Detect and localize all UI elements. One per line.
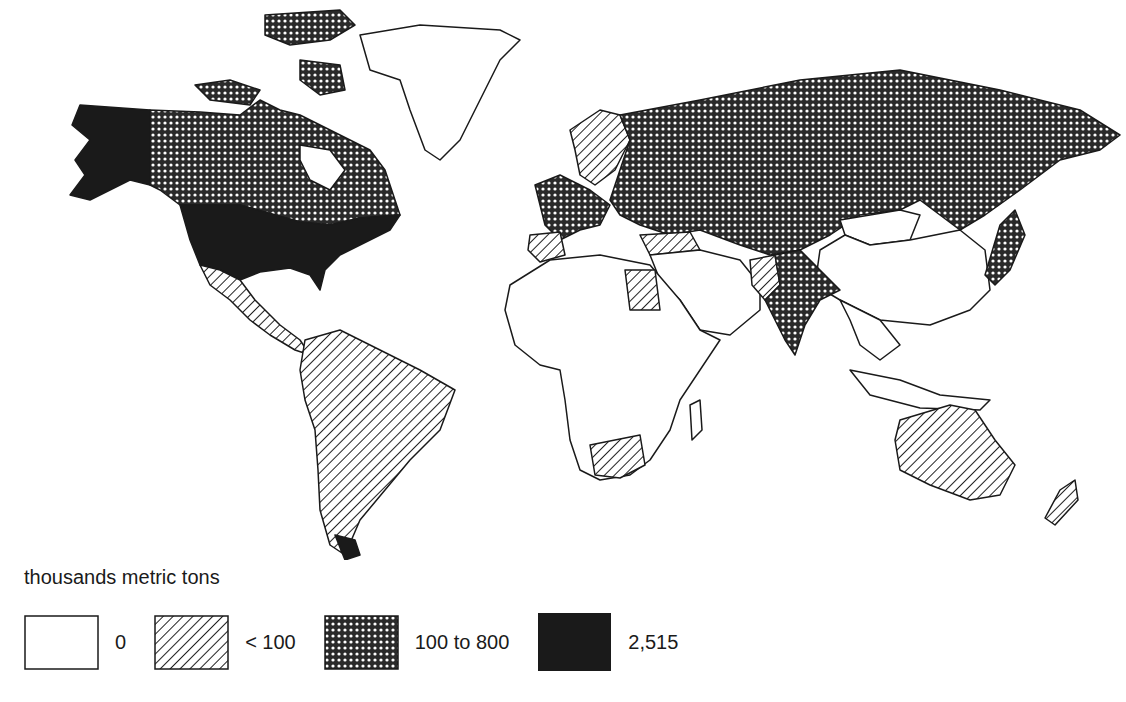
legend-item-zero: 0: [24, 615, 126, 670]
region-greenland: [360, 25, 520, 160]
legend-label: 0: [115, 631, 126, 654]
region-china: [815, 230, 990, 325]
legend-swatch-white: [24, 615, 99, 670]
region-spain: [528, 232, 565, 262]
legend-item-2515: 2,515: [537, 612, 678, 672]
legend-item-lt100: < 100: [154, 615, 296, 670]
legend-swatch-hatch: [154, 615, 229, 670]
region-new-zealand: [1045, 480, 1078, 525]
legend-swatch-crosshatch: [324, 615, 399, 670]
legend-label: 100 to 800: [415, 631, 510, 654]
legend-swatch-black: [537, 612, 612, 672]
region-madagascar: [690, 400, 702, 440]
legend: 0 < 100 100 to 800 2,515: [24, 612, 706, 672]
region-south-america: [300, 330, 455, 555]
region-indonesia: [850, 370, 990, 410]
region-canada-arctic: [195, 10, 355, 105]
legend-label: < 100: [245, 631, 296, 654]
region-western-europe: [535, 175, 610, 240]
region-alaska: [70, 105, 150, 200]
region-japan: [985, 210, 1025, 285]
region-australia: [895, 405, 1015, 500]
world-map: [0, 0, 1126, 560]
legend-label: 2,515: [628, 631, 678, 654]
region-mexico: [200, 265, 310, 355]
region-egypt: [625, 270, 660, 310]
legend-item-100-800: 100 to 800: [324, 615, 510, 670]
legend-title: thousands metric tons: [24, 566, 220, 589]
